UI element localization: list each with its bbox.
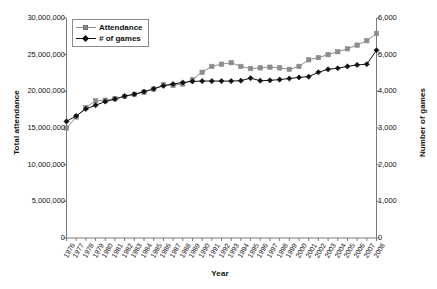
chart-legend: Attendance# of games <box>72 19 149 47</box>
legend-item: # of games <box>76 33 143 44</box>
chart-series <box>64 48 379 124</box>
legend-item: Attendance <box>76 22 143 33</box>
y-axis-right-tick-label: 4,000 <box>378 87 397 95</box>
y-axis-left-tick-label: 20,000,000 <box>27 87 65 95</box>
axis-lines <box>67 18 377 238</box>
y-axis-left-title: Total attendance <box>12 63 21 183</box>
chart-figure: Total attendance Number of games Year 30… <box>0 0 437 289</box>
legend-diamond-marker-icon <box>76 34 96 43</box>
y-axis-left-tick-label: 15,000,000 <box>27 124 65 132</box>
legend-item-label: Attendance <box>99 23 143 32</box>
y-axis-right-tick-label: 6,000 <box>378 14 397 22</box>
x-axis-title: Year <box>150 269 290 278</box>
y-axis-left-tick-label: 25,000,000 <box>27 51 65 59</box>
legend-square-marker-icon <box>76 23 96 32</box>
y-axis-right-tick-label: 3,000 <box>378 124 397 132</box>
legend-item-label: # of games <box>99 34 141 43</box>
y-axis-right-tick-label: 1,000 <box>378 197 397 205</box>
axis-tick-marks <box>64 18 380 241</box>
y-axis-right-tick-label: 5,000 <box>378 51 397 59</box>
y-axis-right-tick-label: 0 <box>378 234 382 242</box>
y-axis-left-tick-label: 10,000,000 <box>27 161 65 169</box>
y-axis-left-tick-label: 30,000,000 <box>27 14 65 22</box>
y-axis-right-title: Number of games <box>418 63 427 183</box>
y-axis-right-tick-label: 2,000 <box>378 161 397 169</box>
y-axis-left-tick-label: 0 <box>61 234 65 242</box>
y-axis-left-tick-label: 5,000,000 <box>32 197 65 205</box>
